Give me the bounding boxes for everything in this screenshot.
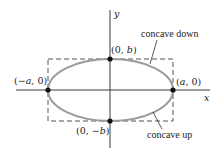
point-right bbox=[170, 87, 175, 92]
point-label-right: (a, 0) bbox=[176, 77, 201, 87]
point-label-left-prefix: (− bbox=[14, 75, 26, 86]
point-label-top-prefix: (0, bbox=[111, 44, 127, 55]
x-axis-label: x bbox=[204, 93, 209, 103]
ellipse-diagram: y x (0, b) (0, −b) (−a, 0) (a, 0) concav… bbox=[0, 0, 224, 155]
concave-up-annotation: concave up bbox=[147, 130, 192, 140]
point-label-bottom-suffix: ) bbox=[106, 125, 110, 136]
concave-down-annotation: concave down bbox=[141, 29, 198, 39]
point-label-bottom-prefix: (0, − bbox=[76, 125, 100, 136]
point-label-left-suffix: , 0) bbox=[31, 75, 47, 86]
point-label-right-suffix: , 0) bbox=[185, 76, 201, 87]
point-bottom bbox=[107, 118, 112, 123]
point-label-top-suffix: ) bbox=[133, 44, 137, 55]
point-left bbox=[45, 87, 50, 92]
concave-down-leader bbox=[150, 40, 157, 64]
point-label-left: (−a, 0) bbox=[14, 76, 47, 86]
concave-up-leader bbox=[153, 112, 162, 129]
point-label-bottom: (0, −b) bbox=[76, 126, 110, 136]
point-label-top: (0, b) bbox=[111, 45, 137, 55]
point-top bbox=[107, 56, 112, 61]
y-axis-label: y bbox=[114, 9, 119, 19]
